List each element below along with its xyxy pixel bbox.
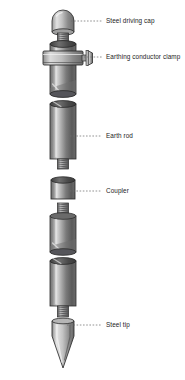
part-earth-rod-third: [50, 203, 76, 255]
steel-tip-top-ellipse: [52, 318, 74, 324]
clamp-bolt-washer: [86, 51, 89, 66]
earth-rod-third-shoulder: [50, 213, 76, 220]
label-steel-tip: Steel tip: [106, 322, 130, 328]
label-steel-driving-cap: Steel driving cap: [106, 18, 155, 24]
part-earth-rod-fourth: [50, 258, 76, 317]
upper-rod-bottom-ellipse: [50, 91, 76, 98]
label-earth-rod: Earth rod: [106, 133, 133, 139]
coupler-top-ellipse: [51, 177, 75, 183]
earth-rod-second-body: [50, 104, 76, 159]
part-earthing-conductor-clamp: [43, 51, 93, 66]
steel-tip-body: [52, 321, 74, 368]
upper-rod-top-ellipse: [50, 41, 76, 48]
part-coupler: [51, 177, 75, 199]
label-coupler: Coupler: [106, 188, 129, 194]
part-steel-tip: [52, 318, 74, 368]
earth-rod-fourth-body: [50, 261, 76, 306]
part-earth-rod-second: [50, 101, 76, 169]
part-upper-earth-rod: [50, 41, 76, 98]
label-earthing-conductor-clamp: Earthing conductor clamp: [106, 54, 180, 60]
part-steel-driving-cap: [52, 10, 74, 35]
earth-rod-third-bottom-ellipse: [50, 249, 76, 256]
